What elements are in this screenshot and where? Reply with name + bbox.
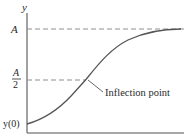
a-half-numerator: A — [12, 67, 20, 78]
a-label: A — [10, 23, 18, 35]
a-half-denominator: 2 — [13, 79, 18, 90]
y0-label: y(0) — [3, 118, 20, 130]
logistic-curve — [27, 29, 181, 124]
inflection-pointer — [88, 80, 103, 92]
y-axis-label: y — [21, 1, 27, 13]
logistic-curve-diagram: y A A 2 y(0) Inflection point — [0, 0, 186, 140]
inflection-point-label: Inflection point — [105, 87, 170, 98]
